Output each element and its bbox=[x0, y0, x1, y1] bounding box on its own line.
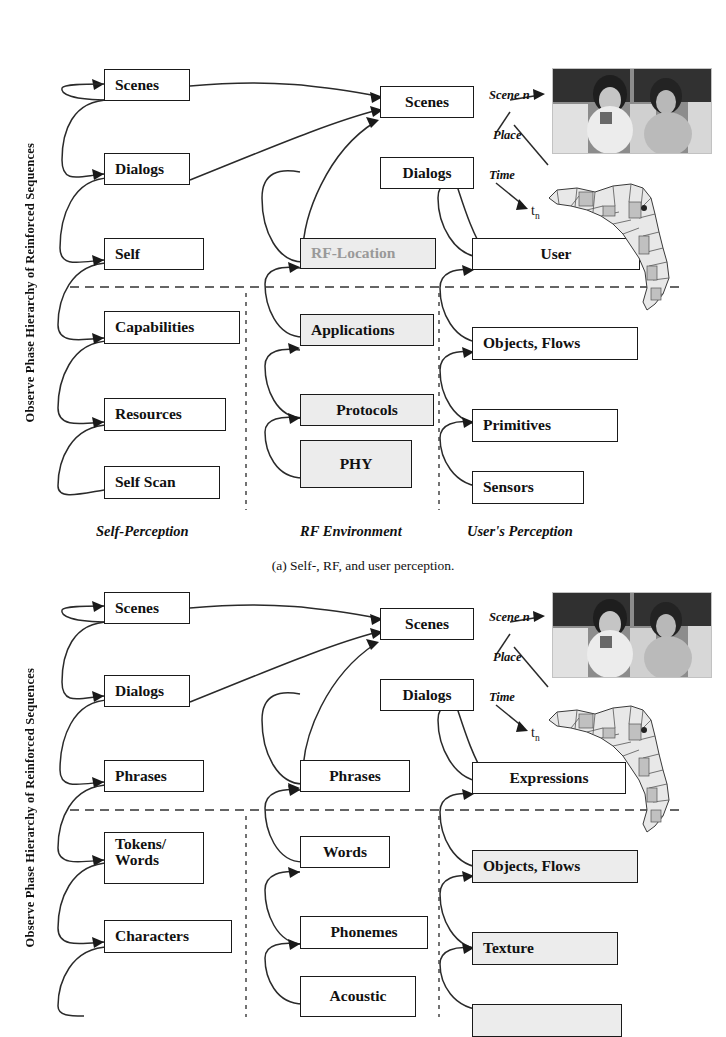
column-caption-rf-environment: RF Environment bbox=[300, 523, 402, 540]
node-objects-flows-b3[interactable]: Objects, Flows bbox=[472, 850, 638, 883]
people-photo-b bbox=[552, 592, 712, 678]
annotation-place-b: Place bbox=[493, 650, 521, 665]
node-self-a1[interactable]: Self bbox=[104, 238, 204, 270]
node-primitives-a3[interactable]: Primitives bbox=[472, 409, 618, 442]
annotation-time-a: Time bbox=[489, 168, 515, 183]
node-capabilities-a1[interactable]: Capabilities bbox=[104, 311, 240, 344]
panel-a: Observe Phase Hierarchy of Reinforced Se… bbox=[0, 0, 726, 592]
node-dialogs-b1[interactable]: Dialogs bbox=[104, 675, 190, 707]
node-phy-a2[interactable]: PHY bbox=[300, 440, 412, 488]
annotation-time-b: Time bbox=[489, 690, 515, 705]
node-sensors-a3[interactable]: Sensors bbox=[472, 471, 584, 504]
annotation-scene-n-a: Scene n bbox=[489, 88, 530, 103]
node-rf-location-a2[interactable]: RF-Location bbox=[300, 238, 436, 269]
annotation-scene-n-b: Scene n bbox=[489, 610, 530, 625]
column-caption-self-perception: Self-Perception bbox=[96, 523, 189, 540]
node-dialogs-a1[interactable]: Dialogs bbox=[104, 153, 190, 185]
column-caption-users-perception: User's Perception bbox=[467, 523, 573, 540]
node-dialogs-b3[interactable]: Dialogs bbox=[380, 679, 474, 711]
node-scenes-b3[interactable]: Scenes bbox=[380, 608, 474, 640]
node-objects-flows-a3[interactable]: Objects, Flows bbox=[472, 327, 638, 360]
florida-county-map-b bbox=[543, 684, 693, 834]
node-partial-b3[interactable] bbox=[472, 1004, 622, 1037]
node-texture-b3[interactable]: Texture bbox=[472, 932, 618, 965]
node-self-scan-a1[interactable]: Self Scan bbox=[104, 466, 220, 499]
node-phrases-b2[interactable]: Phrases bbox=[300, 760, 410, 792]
panel-b: Observe Phase Hierarchy of Reinforced Se… bbox=[0, 592, 726, 1017]
node-applications-a2[interactable]: Applications bbox=[300, 314, 434, 346]
node-characters-b1[interactable]: Characters bbox=[104, 920, 232, 953]
node-protocols-a2[interactable]: Protocols bbox=[300, 394, 434, 426]
node-scenes-a1[interactable]: Scenes bbox=[104, 69, 190, 101]
node-phonemes-b2[interactable]: Phonemes bbox=[300, 916, 428, 949]
node-tokens-words-b1[interactable]: Tokens/ Words bbox=[104, 832, 204, 884]
node-scenes-b1[interactable]: Scenes bbox=[104, 592, 190, 624]
node-phrases-b1[interactable]: Phrases bbox=[104, 760, 204, 792]
node-scenes-a3[interactable]: Scenes bbox=[380, 86, 474, 118]
annotation-tn-a: tn bbox=[531, 203, 540, 221]
node-resources-a1[interactable]: Resources bbox=[104, 398, 226, 431]
node-acoustic-b2[interactable]: Acoustic bbox=[300, 976, 416, 1017]
figure-caption-a: (a) Self-, RF, and user perception. bbox=[0, 558, 726, 574]
node-dialogs-a3[interactable]: Dialogs bbox=[380, 157, 474, 189]
florida-county-map-a bbox=[543, 162, 693, 312]
node-words-b2[interactable]: Words bbox=[300, 836, 390, 868]
annotation-place-a: Place bbox=[493, 128, 521, 143]
annotation-tn-b: tn bbox=[531, 725, 540, 743]
people-photo-a bbox=[552, 68, 712, 154]
